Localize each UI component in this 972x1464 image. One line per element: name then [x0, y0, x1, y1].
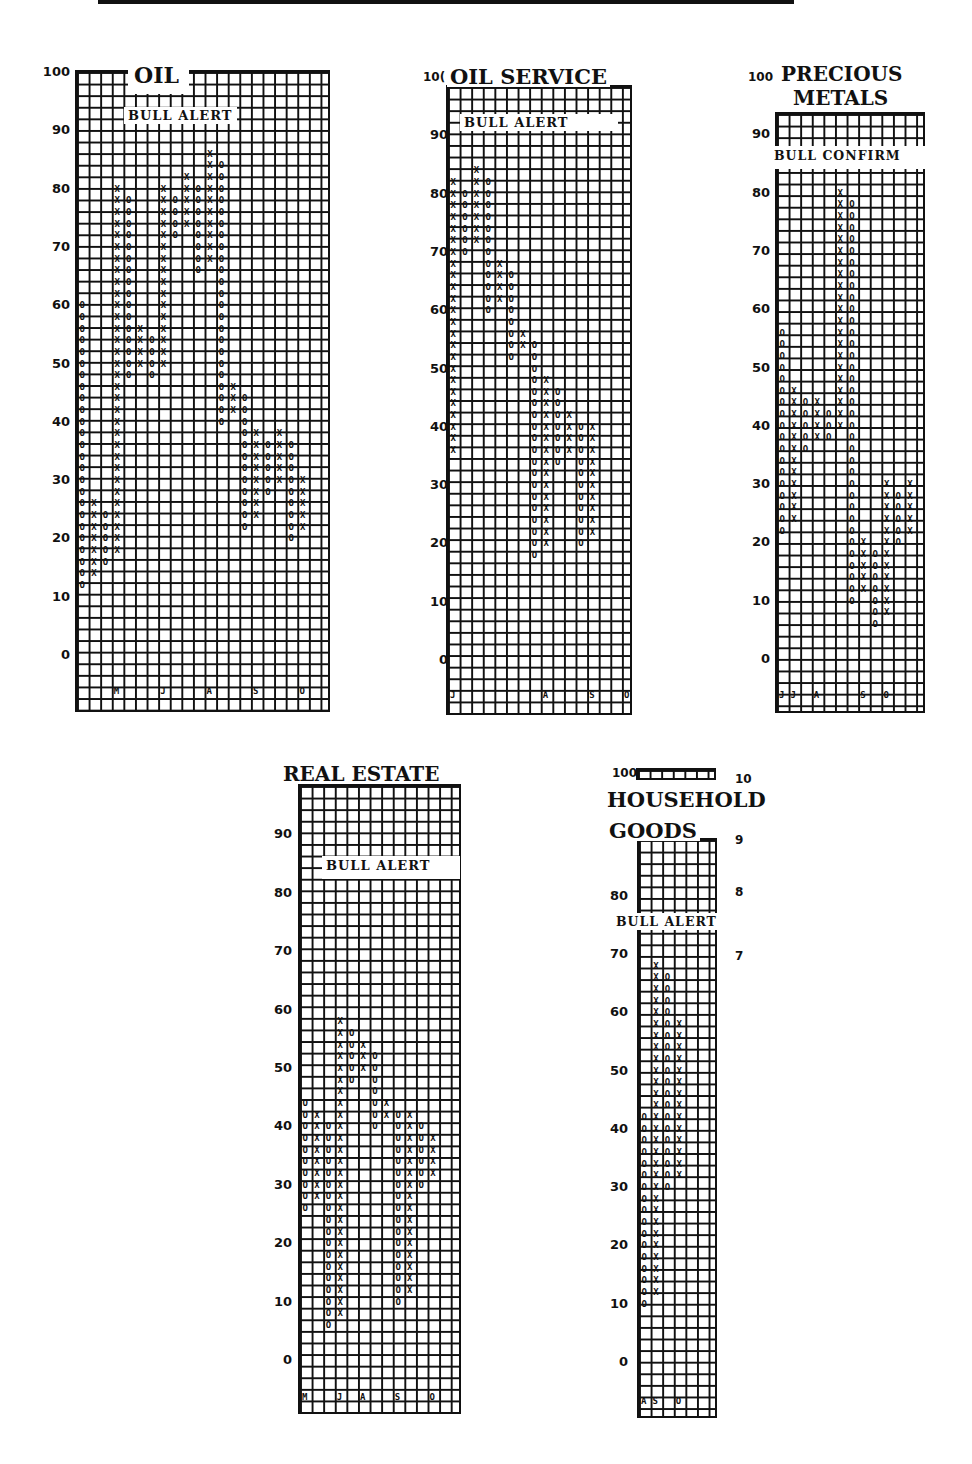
x-mark: X: [136, 336, 145, 345]
y-tick-20: 20: [418, 535, 448, 550]
precious-metals-title-line1: PRECIOUS: [778, 64, 905, 84]
x-mark: X: [675, 1055, 684, 1064]
o-mark: O: [301, 1192, 310, 1201]
x-mark: X: [159, 313, 168, 322]
o-mark: O: [577, 458, 586, 467]
x-mark: X: [159, 360, 168, 369]
o-mark: O: [848, 364, 857, 373]
o-mark: O: [484, 306, 493, 315]
x-mark: X: [836, 329, 845, 338]
x-mark: X: [206, 150, 215, 159]
x-mark: X: [313, 1157, 322, 1166]
x-mark: X: [113, 383, 122, 392]
o-mark: O: [217, 243, 226, 252]
o-mark: O: [394, 1181, 403, 1190]
o-mark: O: [324, 1122, 333, 1131]
o-mark: O: [530, 423, 539, 432]
y-tick-40: 40: [740, 418, 770, 433]
x-mark: X: [588, 481, 597, 490]
o-mark: O: [324, 1157, 333, 1166]
x-mark: X: [882, 538, 891, 547]
o-mark: O: [778, 340, 787, 349]
x-mark: X: [113, 325, 122, 334]
month-marker: O: [883, 690, 888, 700]
x-mark: X: [836, 364, 845, 373]
x-mark: X: [472, 213, 481, 222]
x-mark: X: [882, 562, 891, 571]
x-mark: X: [336, 1122, 345, 1131]
o-mark: O: [394, 1134, 403, 1143]
oil-status: BULL ALERT: [124, 107, 237, 124]
o-mark: O: [484, 225, 493, 234]
o-mark: O: [530, 341, 539, 350]
x-mark: X: [472, 225, 481, 234]
y-tick-0: 0: [598, 1354, 628, 1369]
x-mark: X: [495, 283, 504, 292]
x-mark: X: [159, 325, 168, 334]
x-mark: X: [449, 236, 458, 245]
o-mark: O: [417, 1157, 426, 1166]
o-mark: O: [640, 1288, 649, 1297]
o-mark: O: [530, 376, 539, 385]
x-mark: X: [542, 446, 551, 455]
o-mark: O: [461, 225, 470, 234]
o-mark: O: [894, 515, 903, 524]
x-mark: X: [298, 476, 307, 485]
o-mark: O: [324, 1204, 333, 1213]
o-mark: O: [301, 1204, 310, 1213]
o-mark: O: [78, 429, 87, 438]
o-mark: O: [124, 255, 133, 264]
month-marker: A: [360, 1392, 365, 1402]
month-marker: A: [641, 1396, 646, 1406]
x-mark: X: [449, 213, 458, 222]
o-mark: O: [484, 271, 493, 280]
x-mark: X: [495, 271, 504, 280]
o-mark: O: [78, 569, 87, 578]
x-mark: X: [542, 539, 551, 548]
household-goods-title-line1: HOUSEHOLD: [604, 789, 769, 810]
o-mark: O: [530, 411, 539, 420]
month-marker: S: [395, 1392, 400, 1402]
x-mark: X: [429, 1169, 438, 1178]
x-mark: X: [906, 480, 915, 489]
x-mark: X: [405, 1263, 414, 1272]
o-mark: O: [347, 1064, 356, 1073]
y-tick-20: 20: [740, 534, 770, 549]
x-mark: X: [588, 469, 597, 478]
x-mark: X: [859, 550, 868, 559]
o-mark: O: [663, 1136, 672, 1145]
o-mark: O: [194, 231, 203, 240]
x-mark: X: [206, 196, 215, 205]
o-mark: O: [394, 1298, 403, 1307]
o-mark: O: [324, 1298, 333, 1307]
x-mark: X: [275, 476, 284, 485]
o-mark: O: [778, 375, 787, 384]
x-mark: X: [565, 434, 574, 443]
x-mark: X: [298, 499, 307, 508]
o-mark: O: [530, 516, 539, 525]
o-mark: O: [894, 503, 903, 512]
o-mark: O: [287, 499, 296, 508]
o-mark: O: [553, 423, 562, 432]
y-tick-60: 60: [262, 1002, 292, 1017]
x-mark: X: [652, 1195, 661, 1204]
o-mark: O: [530, 551, 539, 560]
x-mark: X: [229, 394, 238, 403]
y-tick-60: 60: [740, 301, 770, 316]
o-mark: O: [124, 208, 133, 217]
o-mark: O: [640, 1241, 649, 1250]
x-mark: X: [252, 476, 261, 485]
o-mark: O: [507, 283, 516, 292]
o-mark: O: [287, 476, 296, 485]
x-mark: X: [675, 1136, 684, 1145]
o-mark: O: [663, 1078, 672, 1087]
x-mark: X: [113, 546, 122, 555]
o-mark: O: [217, 418, 226, 427]
x-mark: X: [336, 1216, 345, 1225]
y-tick-10: 10: [598, 1296, 628, 1311]
x-mark: X: [429, 1146, 438, 1155]
x-mark: X: [449, 201, 458, 210]
x-mark: X: [449, 225, 458, 234]
x-mark: X: [790, 398, 799, 407]
x-mark: X: [90, 534, 99, 543]
